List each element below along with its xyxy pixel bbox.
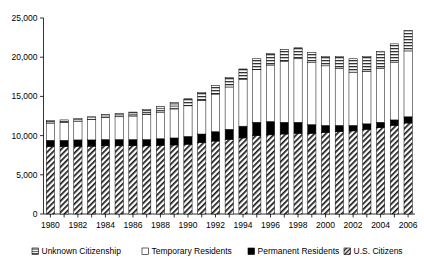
bar-group	[349, 59, 357, 214]
x-axis-tick-label: 1990	[179, 220, 198, 230]
bar-segment	[74, 118, 82, 121]
bar-segment	[88, 146, 96, 214]
bar-group	[239, 69, 247, 214]
bar-segment	[321, 66, 329, 126]
bar-segment	[74, 146, 82, 214]
bar-segment	[184, 99, 192, 106]
bar-segment	[321, 132, 329, 214]
y-axis-tick-label: 25,000	[12, 13, 38, 23]
bar-segment	[143, 114, 151, 139]
bar-segment	[239, 126, 247, 138]
bar-segment	[321, 56, 329, 65]
bar-group	[156, 107, 164, 214]
bar-segment	[308, 63, 316, 125]
x-axis-tick-label: 1980	[41, 220, 60, 230]
bar-segment	[170, 109, 178, 138]
legend-item[interactable]: Temporary Residents	[142, 246, 232, 256]
bar-segment	[280, 134, 288, 214]
bar-group	[321, 56, 329, 214]
bar-group	[390, 44, 398, 214]
bar-group	[170, 103, 178, 214]
bar-segment	[363, 71, 371, 124]
bar-segment	[390, 125, 398, 214]
legend-swatch-white	[142, 248, 149, 255]
bar-segment	[115, 113, 123, 117]
legend-swatch-diagonal-hatch	[344, 248, 351, 255]
y-axis-tick-label: 5,000	[16, 170, 38, 180]
bar-segment	[88, 120, 96, 140]
bar-segment	[156, 145, 164, 214]
legend-label: Unknown Citizenship	[42, 246, 122, 256]
bar-segment	[170, 138, 178, 145]
chart-container: 05,00010,00015,00020,00025,000 198019821…	[0, 0, 424, 268]
bar-segment	[294, 133, 302, 214]
bar-segment	[404, 51, 412, 117]
bar-segment	[363, 124, 371, 129]
stacked-bar-chart: 05,00010,00015,00020,00025,000 198019821…	[0, 0, 424, 268]
bar-segment	[129, 116, 137, 140]
legend-item[interactable]: U.S. Citizens	[344, 246, 403, 256]
bar-segment	[60, 122, 68, 140]
bar-segment	[239, 69, 247, 79]
bar-segment	[294, 122, 302, 133]
bar-group	[198, 92, 206, 214]
x-axis-tick-label: 1992	[206, 220, 225, 230]
x-axis-tick-label: 2006	[399, 220, 418, 230]
legend-item[interactable]: Unknown Citizenship	[32, 246, 121, 256]
bar-segment	[143, 146, 151, 214]
bar-segment	[225, 140, 233, 214]
x-axis-tick-label: 1988	[151, 220, 170, 230]
bar-segment	[349, 59, 357, 72]
legend-label: U.S. Citizens	[354, 246, 403, 256]
legend-swatch-solid-black	[248, 248, 255, 255]
bar-segment	[211, 94, 219, 132]
bar-segment	[88, 140, 96, 146]
bar-segment	[280, 61, 288, 122]
bar-segment	[225, 129, 233, 139]
bar-group	[101, 114, 109, 214]
legend-item[interactable]: Permanent Residents	[248, 246, 339, 256]
bar-group	[88, 117, 96, 214]
bar-segment	[363, 129, 371, 214]
bar-group	[115, 113, 123, 214]
bar-group	[266, 53, 274, 214]
bar-segment	[308, 133, 316, 214]
x-axis-tick-label: 1984	[96, 220, 115, 230]
bar-group	[253, 59, 261, 214]
bar-segment	[60, 147, 68, 214]
bar-segment	[129, 140, 137, 146]
bar-segment	[143, 110, 151, 115]
bar-segment	[101, 140, 109, 146]
bar-segment	[253, 59, 261, 70]
bar-segment	[101, 146, 109, 214]
bar-group	[280, 49, 288, 214]
bar-segment	[280, 49, 288, 61]
legend-label: Temporary Residents	[152, 246, 232, 256]
bar-group	[129, 112, 137, 214]
x-axis-tick-label: 2000	[316, 220, 335, 230]
bar-segment	[46, 121, 54, 123]
bar-group	[294, 48, 302, 214]
bar-segment	[390, 63, 398, 120]
bar-segment	[239, 79, 247, 126]
y-axis-tick-label: 10,000	[12, 131, 38, 141]
bar-segment	[60, 120, 68, 122]
bar-segment	[129, 112, 137, 116]
bar-group	[404, 31, 412, 214]
bar-segment	[115, 146, 123, 214]
bar-segment	[198, 143, 206, 214]
bar-segment	[376, 52, 384, 68]
bar-group	[211, 85, 219, 214]
bar-segment	[363, 56, 371, 71]
bar-segment	[198, 100, 206, 134]
bar-segment	[390, 44, 398, 63]
x-axis-tick-label: 1986	[123, 220, 142, 230]
x-axis-tick-label: 1994	[234, 220, 253, 230]
bar-segment	[376, 122, 384, 127]
bar-segment	[335, 125, 343, 131]
bar-segment	[156, 112, 164, 139]
bar-segment	[211, 141, 219, 214]
bar-segment	[101, 118, 109, 140]
bar-segment	[253, 70, 261, 123]
bar-group	[376, 52, 384, 214]
